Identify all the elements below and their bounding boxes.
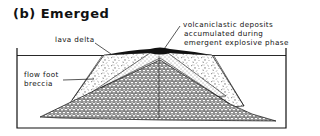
lava-delta-cap xyxy=(105,48,212,56)
lava-delta-label: lava delta xyxy=(55,36,95,45)
volcaniclastic-label-line3: emergent explosive phase xyxy=(184,39,289,48)
flow-foot-label-line2: breccia xyxy=(24,80,53,89)
pillow-lava-pile xyxy=(40,60,276,121)
volcaniclastic-leader xyxy=(162,26,180,52)
lava-delta-leader xyxy=(95,43,111,54)
